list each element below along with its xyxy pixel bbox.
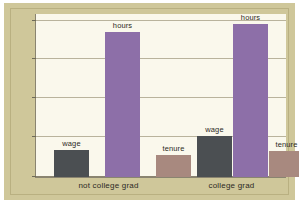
bar-hours-college-grad[interactable] (233, 24, 268, 177)
bar-wage-college-grad[interactable] (197, 136, 232, 177)
category-label-not-college-grad: not college grad (31, 181, 186, 190)
bar-label-hours-college-grad: hours (233, 13, 268, 22)
plot-panel: wage hours tenure wage hours tenure (35, 14, 286, 178)
tick-30 (32, 58, 36, 59)
bar-hours-not-college-grad[interactable] (105, 32, 140, 177)
chart-screenshot: 40 30 20 10 0 (0, 0, 299, 203)
bar-label-wage-college-grad: wage (197, 125, 232, 134)
bar-label-hours-not-college-grad: hours (105, 21, 140, 30)
bar-wage-not-college-grad[interactable] (54, 150, 89, 177)
plot-area: wage hours tenure wage hours tenure (36, 14, 286, 177)
category-label-college-grad: college grad (174, 181, 289, 190)
tick-10 (32, 136, 36, 137)
bar-tenure-not-college-grad[interactable] (156, 155, 191, 177)
bar-label-tenure-not-college-grad: tenure (156, 144, 191, 153)
bar-label-wage-not-college-grad: wage (54, 139, 89, 148)
tick-0 (32, 176, 36, 177)
bar-label-tenure-college-grad: tenure (269, 140, 299, 149)
bar-tenure-college-grad[interactable] (269, 151, 299, 177)
figure-frame: 40 30 20 10 0 (4, 3, 295, 200)
tick-40 (32, 20, 36, 21)
tick-20 (32, 97, 36, 98)
